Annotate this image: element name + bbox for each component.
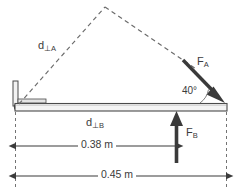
beam-body [15, 104, 227, 112]
force-b-arrowhead [170, 111, 183, 126]
label-d-perp-b: d⊥B [86, 117, 104, 130]
label-force-a-base: F [197, 55, 204, 67]
wall-post [13, 81, 18, 106]
label-force-b-sub: B [193, 131, 198, 140]
angle-arc [200, 90, 209, 104]
label-angle: 40° [182, 86, 197, 96]
force-a-line-of-action [105, 7, 196, 69]
d-perp-a-line [19, 7, 105, 104]
label-force-b: FB [186, 127, 198, 140]
force-b-arrow [170, 111, 183, 163]
torque-diagram: d⊥A d⊥B FA FB 40° 0.38 m 0.45 m [0, 0, 245, 195]
label-dimension-outer: 0.45 m [98, 169, 136, 180]
diagram-canvas [0, 0, 245, 195]
label-d-perp-a: d⊥A [38, 40, 56, 53]
label-d-perp-a-sub: ⊥A [44, 44, 56, 53]
label-force-a-sub: A [204, 60, 209, 69]
beam [15, 104, 227, 112]
label-force-a: FA [197, 56, 209, 69]
label-dimension-inner: 0.38 m [78, 139, 116, 150]
moment-arm-construction [19, 7, 196, 104]
label-d-perp-b-sub: ⊥B [92, 121, 104, 130]
label-force-b-base: F [186, 126, 193, 138]
